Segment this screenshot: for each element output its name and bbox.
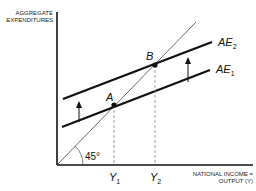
- ae1-label: AE1: [215, 63, 235, 77]
- angle-label: 45°: [85, 151, 100, 162]
- keynesian-cross-diagram: 45° A B AE2 AE1 Y1 Y2 AGGREGATE EXPENDIT…: [0, 0, 256, 191]
- y-axis-label-line2: EXPENDITURES: [6, 17, 53, 23]
- point-b-label: B: [146, 50, 153, 62]
- ae2-label: AE2: [217, 36, 237, 50]
- arrowhead-left-icon: [76, 101, 82, 108]
- y-axis-label-line1: AGGREGATE: [15, 10, 53, 16]
- x-axis-label-line2: OUTPUT (Y): [219, 178, 253, 184]
- point-a-label: A: [105, 91, 113, 103]
- angle-arc: [75, 146, 83, 165]
- point-b: [152, 62, 157, 67]
- arrowhead-right-icon: [185, 57, 191, 64]
- y1-tick-label: Y1: [109, 171, 120, 185]
- ae2-line: [63, 42, 212, 99]
- x-axis-label-line1: NATIONAL INCOME =: [193, 171, 254, 177]
- point-a: [111, 102, 116, 107]
- y2-tick-label: Y2: [150, 171, 161, 185]
